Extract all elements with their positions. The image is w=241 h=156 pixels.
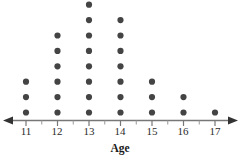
data-dot <box>54 48 60 54</box>
data-dot <box>86 32 92 38</box>
data-dot <box>54 94 60 100</box>
tick-label-11: 11 <box>21 125 32 137</box>
tick-label-13: 13 <box>84 125 96 137</box>
data-dot <box>117 32 123 38</box>
data-dot <box>86 17 92 23</box>
tick-label-17: 17 <box>210 125 222 137</box>
data-dot <box>86 48 92 54</box>
data-dot <box>180 109 186 115</box>
data-dot <box>117 109 123 115</box>
data-dot <box>149 109 155 115</box>
data-dot <box>54 79 60 85</box>
data-dot <box>149 79 155 85</box>
axis-arrow-left-icon <box>3 117 13 125</box>
data-dot <box>117 79 123 85</box>
data-dot <box>23 109 29 115</box>
data-dot <box>23 79 29 85</box>
tick-label-15: 15 <box>147 125 159 137</box>
data-dot <box>54 109 60 115</box>
data-dot <box>54 63 60 69</box>
axis-arrow-right-icon <box>228 117 238 125</box>
data-dot <box>117 17 123 23</box>
data-dot <box>86 63 92 69</box>
data-dot <box>180 94 186 100</box>
axis-tick-labels: 11 12 13 14 15 16 17 <box>21 125 221 137</box>
x-axis-title: Age <box>110 142 129 155</box>
dot-plot-figure: 11 12 13 14 15 16 17 Age <box>0 0 241 156</box>
data-dot <box>86 94 92 100</box>
tick-label-12: 12 <box>52 125 63 137</box>
data-dot <box>117 94 123 100</box>
data-dot <box>86 2 92 8</box>
data-dot <box>212 109 218 115</box>
data-dot <box>86 109 92 115</box>
data-dot <box>86 79 92 85</box>
data-dot <box>117 63 123 69</box>
data-dot <box>54 32 60 38</box>
dot-plot-canvas: 11 12 13 14 15 16 17 Age <box>0 0 241 156</box>
tick-label-14: 14 <box>115 125 127 137</box>
dot-series-layer <box>23 2 218 116</box>
data-dot <box>149 94 155 100</box>
tick-label-16: 16 <box>178 125 190 137</box>
data-dot <box>117 48 123 54</box>
data-dot <box>23 94 29 100</box>
